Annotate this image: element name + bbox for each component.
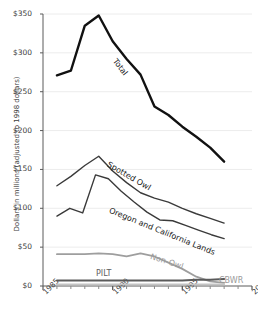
series-line bbox=[57, 16, 224, 162]
plot-area bbox=[0, 0, 258, 315]
series-label-cbwr: CBWR bbox=[219, 276, 243, 285]
series-line bbox=[57, 279, 224, 281]
series-label-pilt: PILT bbox=[96, 269, 111, 278]
chart-container: Federal Payments to Counties Declining D… bbox=[0, 0, 258, 315]
series-line bbox=[57, 253, 224, 283]
